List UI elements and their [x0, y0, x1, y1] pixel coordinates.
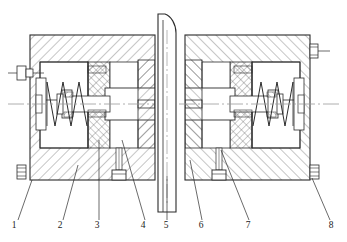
bolt-right-upper	[310, 44, 330, 58]
callout-label-1: 1	[12, 220, 17, 230]
callout-label-7: 7	[246, 220, 251, 230]
bolt-right-lower	[310, 165, 319, 179]
callout-8: 8	[312, 178, 334, 230]
right-housing-block	[185, 35, 310, 180]
callout-label-4: 4	[141, 220, 146, 230]
callout-label-2: 2	[58, 220, 63, 230]
callout-leader-line	[312, 178, 330, 220]
left-housing-block	[30, 35, 155, 180]
callout-label-6: 6	[199, 220, 204, 230]
callout-label-5: 5	[164, 220, 169, 230]
callout-label-8: 8	[329, 220, 334, 230]
cross-section-drawing: 12345678	[0, 0, 347, 242]
callout-leader-line	[18, 180, 32, 220]
callout-1: 1	[12, 180, 32, 230]
bolt-left-lower	[17, 165, 26, 179]
callout-label-3: 3	[95, 220, 100, 230]
technical-drawing-canvas: 12345678	[0, 0, 347, 242]
